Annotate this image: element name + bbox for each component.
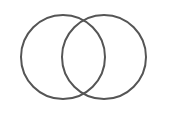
venn-diagram bbox=[0, 0, 178, 119]
